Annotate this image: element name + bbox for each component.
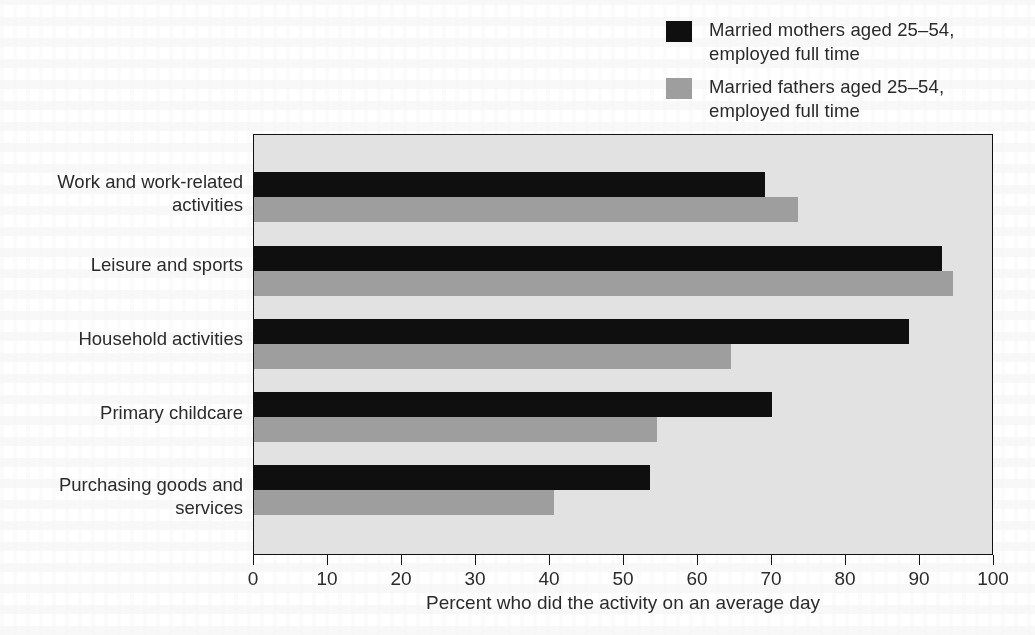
x-axis: 0102030405060708090100 [253, 555, 993, 556]
legend-item-mothers: Married mothers aged 25–54, employed ful… [666, 18, 1026, 66]
x-tick-label-10: 10 [316, 568, 337, 590]
legend-swatch-mothers-icon [666, 21, 692, 42]
legend-swatch-fathers-icon [666, 78, 692, 99]
bars-container [254, 135, 992, 554]
bar-mothers-1 [254, 246, 942, 271]
bar-mothers-4 [254, 465, 650, 490]
plot-area [253, 134, 993, 555]
x-tick-label-30: 30 [464, 568, 485, 590]
x-tick-50 [623, 555, 624, 565]
x-tick-70 [771, 555, 772, 565]
x-tick-20 [401, 555, 402, 565]
bar-fathers-2 [254, 344, 731, 369]
category-label-purchasing: Purchasing goods and services [8, 473, 243, 519]
x-tick-label-70: 70 [760, 568, 781, 590]
bar-mothers-0 [254, 172, 765, 197]
category-label-childcare: Primary childcare [8, 401, 243, 424]
x-tick-30 [475, 555, 476, 565]
bar-mothers-3 [254, 392, 772, 417]
x-tick-60 [697, 555, 698, 565]
x-axis-title: Percent who did the activity on an avera… [253, 592, 993, 614]
category-label-leisure: Leisure and sports [8, 253, 243, 276]
legend-item-fathers: Married fathers aged 25–54, employed ful… [666, 75, 1026, 123]
x-tick-label-20: 20 [390, 568, 411, 590]
bar-fathers-0 [254, 197, 798, 222]
legend-label-fathers: Married fathers aged 25–54, employed ful… [709, 75, 944, 123]
x-tick-label-50: 50 [612, 568, 633, 590]
x-tick-label-0: 0 [248, 568, 259, 590]
bar-fathers-3 [254, 417, 657, 442]
x-tick-label-90: 90 [908, 568, 929, 590]
x-tick-100 [993, 555, 994, 565]
x-tick-10 [327, 555, 328, 565]
chart-figure: Married mothers aged 25–54, employed ful… [0, 0, 1035, 635]
x-tick-label-80: 80 [834, 568, 855, 590]
legend-label-mothers: Married mothers aged 25–54, employed ful… [709, 18, 954, 66]
x-tick-0 [253, 555, 254, 565]
category-label-household: Household activities [8, 327, 243, 350]
category-label-work: Work and work-related activities [8, 170, 243, 216]
bar-mothers-2 [254, 319, 909, 344]
bar-fathers-4 [254, 490, 554, 515]
x-tick-label-60: 60 [686, 568, 707, 590]
bar-fathers-1 [254, 271, 953, 296]
x-tick-40 [549, 555, 550, 565]
x-tick-80 [845, 555, 846, 565]
x-tick-label-40: 40 [538, 568, 559, 590]
x-tick-label-100: 100 [977, 568, 1009, 590]
chart-legend: Married mothers aged 25–54, employed ful… [666, 18, 1026, 132]
x-tick-90 [919, 555, 920, 565]
